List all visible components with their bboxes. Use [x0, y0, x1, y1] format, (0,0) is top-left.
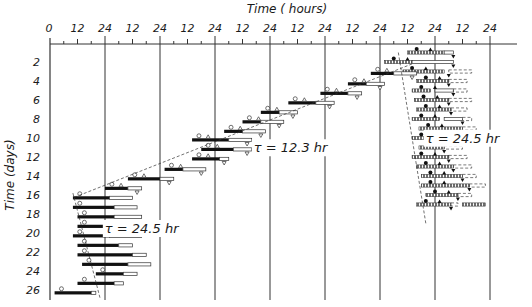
offset-marker-open: [291, 115, 295, 119]
onset-marker-open: [197, 134, 201, 138]
offset-marker-open: [245, 143, 249, 147]
y-tick-label: 10: [26, 132, 40, 145]
triangle-marker-open: [302, 98, 306, 102]
activity-bar-solid: [417, 165, 454, 168]
x-tick-label: 12: [181, 22, 195, 35]
offset-marker-filled: [447, 103, 451, 107]
onset-marker-open: [78, 230, 82, 234]
x-tick-label: 24: [428, 22, 442, 35]
onset-marker-open: [229, 125, 233, 129]
y-tick-label: 16: [26, 189, 40, 202]
activity-bar-open: [412, 60, 453, 63]
activity-bar-solid: [73, 196, 110, 199]
activity-bar-dashed: [463, 127, 477, 130]
activity-bar-solid: [421, 174, 462, 177]
y-axis: 2468101214161820222426: [26, 56, 40, 297]
activity-bar-open: [229, 138, 252, 141]
triangle-marker-filled: [424, 66, 428, 70]
triangle-marker-open: [362, 79, 366, 83]
offset-marker-open: [222, 162, 226, 166]
x-tick-label: 24: [208, 22, 222, 35]
activity-bar-solid: [421, 184, 469, 187]
x-axis-title: Time ( hours): [247, 2, 327, 16]
activity-bar-solid: [78, 215, 115, 218]
onset-marker-open: [78, 201, 82, 205]
activity-bar-solid: [96, 272, 124, 275]
triangle-marker-open: [334, 88, 338, 92]
x-tick-label: 12: [456, 22, 470, 35]
y-tick-label: 2: [33, 56, 40, 69]
activity-bar-dashed: [463, 174, 477, 177]
y-tick-label: 26: [26, 284, 40, 297]
triangle-marker-filled: [447, 190, 451, 194]
activity-bar-open: [114, 282, 123, 285]
activity-bar-dashed: [451, 203, 458, 206]
offset-marker-open: [277, 124, 281, 128]
activity-bar-solid: [414, 98, 448, 101]
offset-marker-filled: [449, 207, 453, 211]
onset-marker-filled: [415, 47, 419, 51]
triangle-marker-filled: [406, 57, 410, 61]
onset-marker-open: [110, 182, 114, 186]
activity-bar-open: [316, 101, 334, 104]
onset-marker-open: [59, 287, 63, 291]
x-tick-label: 24: [318, 22, 332, 35]
activity-bar-solid: [261, 111, 279, 114]
triangle-marker-open: [206, 135, 210, 139]
activity-bar-solid: [224, 130, 242, 133]
onset-marker-filled: [428, 170, 432, 174]
activity-bar-dashed: [449, 98, 472, 101]
onset-marker-open: [247, 116, 251, 120]
activity-bar-open: [444, 117, 462, 120]
activity-bar-solid: [417, 203, 451, 206]
y-tick-label: 4: [33, 75, 40, 88]
triangle-marker-open: [206, 154, 210, 158]
onset-marker-open: [293, 97, 297, 101]
y-tick-label: 6: [33, 94, 40, 107]
offset-marker-open: [328, 105, 332, 109]
onset-marker-open: [82, 220, 86, 224]
activity-bar-solid: [412, 155, 449, 158]
trend-line-ultradian: [73, 64, 412, 198]
activity-bar-extra: [463, 203, 486, 206]
offset-marker-open: [259, 134, 263, 138]
triangle-marker-filled: [428, 47, 432, 51]
triangle-marker-filled: [438, 161, 442, 165]
offset-marker-filled: [447, 84, 451, 88]
triangle-marker-open: [385, 68, 389, 72]
offset-marker-filled: [449, 112, 453, 116]
activity-bar-open: [444, 51, 453, 54]
offset-marker-filled: [461, 122, 465, 126]
activity-bar-open: [123, 272, 137, 275]
onset-marker-open: [197, 153, 201, 157]
triangle-marker-open: [142, 174, 146, 178]
activity-bar-dashed: [451, 108, 467, 111]
triangle-marker-open: [275, 107, 279, 111]
x-tick-label: 12: [291, 22, 305, 35]
offset-marker-filled: [447, 74, 451, 78]
triangle-marker-filled: [442, 180, 446, 184]
offset-marker-open: [167, 181, 171, 185]
onset-marker-filled: [428, 180, 432, 184]
offset-marker-open: [355, 96, 359, 100]
onset-marker-open: [82, 249, 86, 253]
activity-bar-open: [435, 89, 453, 92]
activity-bar-solid: [288, 101, 316, 104]
onset-marker-filled: [419, 151, 423, 155]
activity-bar-solid: [320, 92, 348, 95]
activity-bar-solid: [426, 193, 458, 196]
offset-marker-filled: [461, 179, 465, 183]
offset-marker-filled: [447, 160, 451, 164]
triangle-marker-filled: [438, 199, 442, 203]
activity-bar-open: [366, 82, 384, 85]
trend-lines: [73, 53, 426, 300]
activity-bar-open: [128, 263, 151, 266]
onset-marker-filled: [433, 189, 437, 193]
triangle-marker-filled: [433, 152, 437, 156]
onset-marker-open: [82, 277, 86, 281]
x-tick-label: 24: [153, 22, 167, 35]
onset-marker-open: [101, 268, 105, 272]
offset-marker-filled: [451, 93, 455, 97]
activity-bar-solid: [408, 51, 445, 54]
activity-bar-open: [114, 206, 137, 209]
